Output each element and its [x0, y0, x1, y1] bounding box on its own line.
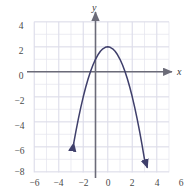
- grid-major-lines: [34, 22, 169, 173]
- parabola-path: [74, 47, 148, 167]
- graph-figure: 4 2 0 −2 −4 −6 −8 −6 −4 −2 0 2 4 6 y x: [0, 0, 189, 193]
- y-axis-label: y: [92, 3, 96, 13]
- x-tick-label-6: 6: [174, 178, 188, 188]
- parabola-curve: [74, 59, 96, 166]
- x-tick-label-0: 0: [101, 178, 115, 188]
- x-tick-label-neg6: −6: [26, 178, 43, 188]
- y-tick-label-neg4: −4: [11, 121, 28, 131]
- y-tick-label-2: 2: [14, 46, 28, 56]
- y-tick-label-4: 4: [14, 21, 28, 31]
- y-tick-label-neg8: −8: [11, 167, 28, 177]
- x-tick-label-2: 2: [125, 178, 139, 188]
- coordinate-plane-svg: [0, 0, 189, 193]
- x-tick-label-neg4: −4: [50, 178, 67, 188]
- x-axis-label: x: [177, 67, 181, 77]
- x-tick-label-4: 4: [150, 178, 164, 188]
- x-tick-label-neg2: −2: [75, 178, 92, 188]
- y-tick-label-neg2: −2: [11, 96, 28, 106]
- y-tick-label-neg6: −6: [11, 146, 28, 156]
- y-tick-label-0: 0: [14, 71, 28, 81]
